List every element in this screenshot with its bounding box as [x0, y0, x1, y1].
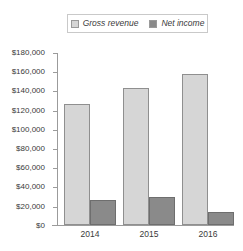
y-axis-tick-label: $160,000: [12, 68, 45, 76]
y-axis-tick-label: $120,000: [12, 107, 45, 115]
y-axis-tick-label: $60,000: [16, 164, 45, 172]
y-axis-tick-label: $180,000: [12, 49, 45, 57]
bar-net-income-2016: [208, 212, 234, 225]
legend-swatch-icon: [71, 20, 79, 28]
x-axis-tick-label: 2015: [123, 230, 175, 239]
bar-gross-revenue-2015: [123, 88, 149, 225]
plot-area: [58, 53, 234, 225]
y-axis-tick-label: $140,000: [12, 87, 45, 95]
bar-gross-revenue-2016: [182, 74, 208, 225]
y-axis-labels: $180,000 $160,000 $140,000 $120,000 $100…: [0, 44, 52, 226]
legend-label: Gross revenue: [83, 19, 139, 28]
x-axis-tick-label: 2014: [64, 230, 116, 239]
x-axis-labels: 2014 2015 2016: [58, 230, 234, 246]
bar-chart: $180,000 $160,000 $140,000 $120,000 $100…: [0, 44, 243, 251]
y-axis-tick-label: $0: [36, 222, 45, 230]
legend-entry-net-income: Net income: [149, 19, 204, 28]
y-axis-tick-label: $20,000: [16, 203, 45, 211]
bar-net-income-2014: [90, 200, 116, 225]
legend-label: Net income: [161, 19, 204, 28]
bar-gross-revenue-2014: [64, 104, 90, 225]
y-axis-tick-label: $100,000: [12, 126, 45, 134]
x-axis-tick-label: 2016: [182, 230, 234, 239]
legend-swatch-icon: [149, 20, 157, 28]
y-axis-tick-label: $80,000: [16, 145, 45, 153]
bar-net-income-2015: [149, 197, 175, 225]
y-axis-tick-label: $40,000: [16, 183, 45, 191]
bar-group-2016: [182, 53, 234, 225]
x-axis-line: [52, 225, 234, 226]
bar-group-2014: [64, 53, 116, 225]
chart-legend: Gross revenue Net income: [67, 14, 208, 33]
bar-group-2015: [123, 53, 175, 225]
legend-entry-gross-revenue: Gross revenue: [71, 19, 139, 28]
